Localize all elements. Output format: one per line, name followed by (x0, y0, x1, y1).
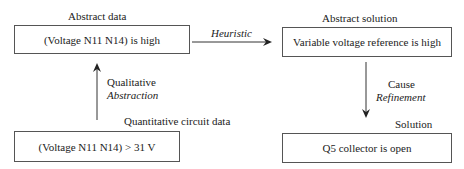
solution-text: Q5 collector is open (323, 142, 412, 154)
abstract-solution-box: Variable voltage reference is high (282, 27, 452, 57)
refinement-label-line2: Refinement (376, 91, 425, 103)
quantitative-data-text: (Voltage N11 N14) > 31 V (39, 141, 156, 153)
abstract-data-title: Abstract data (68, 10, 126, 22)
abstraction-label-line2: Abstraction (107, 89, 158, 101)
abstraction-label-line1: Qualitative (107, 76, 156, 88)
abstract-solution-title: Abstract solution (322, 12, 397, 24)
refinement-label-line1: Cause (388, 78, 415, 90)
quantitative-data-box: (Voltage N11 N14) > 31 V (14, 131, 180, 162)
refinement-arrow (362, 62, 370, 118)
abstract-solution-text: Variable voltage reference is high (293, 36, 441, 48)
heuristic-label: Heuristic (211, 27, 252, 39)
quantitative-data-title: Quantitative circuit data (124, 115, 230, 127)
solution-title: Solution (395, 118, 432, 130)
heuristic-arrow (192, 38, 272, 46)
solution-box: Q5 collector is open (282, 133, 452, 163)
abstraction-arrow (93, 63, 101, 120)
abstract-data-box: (Voltage N11 N14) is high (14, 25, 190, 54)
abstract-data-text: (Voltage N11 N14) is high (44, 34, 160, 46)
